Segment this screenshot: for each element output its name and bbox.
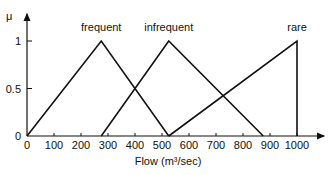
label-rare: rare [287,21,307,33]
series-rare [169,41,297,136]
x-tick-label: 200 [72,139,90,151]
axes: μ0100200300400500600700800900100000.51Fl… [6,10,324,167]
y-tick-label: 0.5 [6,83,21,95]
y-axis-label: μ [6,10,12,22]
x-tick-label: 700 [207,139,225,151]
x-axis-label: Flow (m³/sec) [135,155,202,167]
x-tick-label: 900 [261,139,279,151]
series-frequent [27,41,169,136]
y-tick-label: 1 [15,35,21,47]
x-tick-label: 800 [234,139,252,151]
label-frequent: frequent [81,21,121,33]
y-tick-label: 0 [15,130,21,142]
series-labels: frequentinfrequentrare [81,21,307,33]
x-tick-label: 300 [99,139,117,151]
x-tick-label: 0 [24,139,30,151]
label-infrequent: infrequent [144,21,193,33]
membership-function-chart: μ0100200300400500600700800900100000.51Fl… [0,0,336,175]
series-lines [27,41,297,136]
series-infrequent [101,41,263,136]
x-tick-label: 100 [45,139,63,151]
x-tick-label: 1000 [285,139,309,151]
x-tick-label: 600 [180,139,198,151]
x-tick-label: 500 [153,139,171,151]
x-tick-label: 400 [126,139,144,151]
